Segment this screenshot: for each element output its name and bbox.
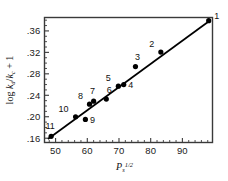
data-point-label: 4: [128, 80, 133, 90]
data-point-label: 2: [149, 39, 154, 49]
data-point: [49, 134, 54, 139]
x-tick-label: 70: [114, 145, 125, 156]
figure-container: 5060708090 .16.20.24.28.32.36 1234567891…: [0, 0, 228, 181]
y-tick-label: .32: [27, 47, 41, 58]
data-point-labels: 1234567891011: [45, 11, 219, 132]
data-point-label: 8: [78, 91, 83, 101]
x-tick-label: 80: [145, 145, 156, 156]
y-axis-tick-labels: .16.20.24.28.32.36: [27, 25, 41, 143]
y-axis-title-text: log kd/kc + 1: [4, 56, 16, 105]
x-tick-label: 50: [50, 145, 61, 156]
data-point: [73, 114, 78, 119]
scatter-plot: 5060708090 .16.20.24.28.32.36 1234567891…: [0, 0, 228, 181]
x-axis-tick-labels: 5060708090: [50, 145, 188, 156]
x-tick-label: 90: [177, 145, 188, 156]
data-point-label: 7: [90, 86, 95, 96]
data-point-label: 6: [107, 85, 112, 95]
y-tick-label: .36: [27, 25, 41, 36]
data-point-label: 11: [45, 121, 54, 131]
data-point-label: 1: [214, 11, 219, 21]
data-point-label: 5: [106, 73, 111, 83]
data-point: [83, 117, 88, 122]
data-point: [206, 18, 211, 23]
data-point: [116, 84, 121, 89]
x-axis-title-text: Ps1/2: [115, 161, 134, 174]
data-point-label: 3: [135, 52, 140, 62]
data-point-label: 9: [90, 115, 95, 125]
y-tick-label: .24: [27, 90, 41, 101]
y-tick-label: .20: [27, 111, 41, 122]
y-tick-label: .28: [27, 68, 41, 79]
x-tick-label: 60: [82, 145, 93, 156]
data-point: [133, 64, 138, 69]
y-tick-label: .16: [27, 133, 41, 144]
x-axis-title: Ps1/2: [115, 161, 134, 174]
y-axis-title: log kd/kc + 1: [4, 56, 16, 105]
data-point: [158, 50, 163, 55]
data-point: [87, 102, 92, 107]
data-point-label: 10: [59, 104, 69, 114]
data-point: [104, 96, 109, 101]
data-point: [121, 82, 126, 87]
